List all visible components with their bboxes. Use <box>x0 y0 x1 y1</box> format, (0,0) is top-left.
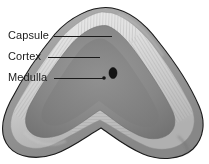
central-vein-opening <box>109 68 117 79</box>
label-cortex: Cortex <box>8 50 41 62</box>
label-medulla: Medulla <box>8 71 48 83</box>
gland-cross-section-illustration: Capsule Cortex Medulla <box>0 0 209 164</box>
label-capsule: Capsule <box>8 29 49 41</box>
anatomy-figure: Capsule Cortex Medulla <box>0 0 209 164</box>
